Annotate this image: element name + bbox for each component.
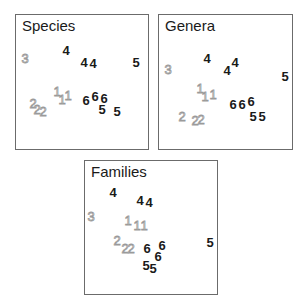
point-label: 5 <box>132 56 139 69</box>
point-label: 3 <box>21 52 28 65</box>
point-label: 1 <box>64 89 71 102</box>
point-label: 6 <box>82 94 89 107</box>
point-label: 4 <box>136 194 143 207</box>
point-label: 1 <box>124 214 131 227</box>
panel-title: Genera <box>165 17 215 34</box>
point-label: 5 <box>113 105 120 118</box>
point-label: 5 <box>98 103 105 116</box>
species-panel: Species <box>15 14 149 150</box>
point-label: 4 <box>223 64 230 77</box>
point-label: 2 <box>127 242 134 255</box>
point-label: 4 <box>109 186 116 199</box>
point-label: 4 <box>80 56 87 69</box>
point-label: 5 <box>206 236 213 249</box>
point-label: 2 <box>39 105 46 118</box>
point-label: 5 <box>149 262 156 275</box>
point-label: 6 <box>247 95 254 108</box>
point-label: 4 <box>62 44 69 57</box>
point-label: 2 <box>113 234 120 247</box>
point-label: 3 <box>164 63 171 76</box>
point-label: 1 <box>201 90 208 103</box>
point-label: 6 <box>143 242 150 255</box>
point-label: 1 <box>209 88 216 101</box>
point-label: 5 <box>249 110 256 123</box>
panel-title: Species <box>22 17 75 34</box>
point-label: 3 <box>87 210 94 223</box>
point-label: 5 <box>258 110 265 123</box>
point-label: 2 <box>178 110 185 123</box>
genera-panel: Genera <box>158 14 293 150</box>
point-label: 5 <box>281 70 288 83</box>
point-label: 4 <box>145 196 152 209</box>
point-label: 1 <box>140 219 147 232</box>
point-label: 4 <box>203 52 210 65</box>
point-label: 4 <box>89 57 96 70</box>
point-label: 6 <box>238 98 245 111</box>
point-label: 2 <box>197 113 204 126</box>
point-label: 4 <box>231 56 238 69</box>
point-label: 6 <box>229 98 236 111</box>
panel-title: Families <box>91 163 147 180</box>
